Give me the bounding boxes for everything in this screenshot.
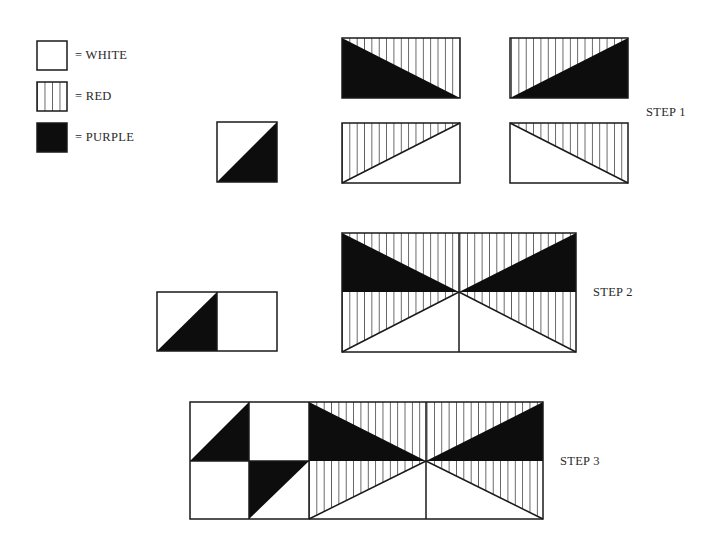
legend-label-white: = WHITE	[75, 48, 127, 63]
step1-rect-bottom-left	[342, 123, 460, 183]
legend-label-purple: = PURPLE	[75, 130, 134, 145]
step2-large-unit	[342, 233, 576, 352]
step3-label: STEP 3	[560, 454, 600, 469]
step2-small-unit	[157, 292, 277, 351]
legend-swatch-white	[37, 41, 67, 70]
step1-label: STEP 1	[646, 105, 686, 120]
legend	[37, 41, 67, 152]
legend-swatch-purple	[37, 123, 67, 152]
step1-rect-top-left	[342, 38, 460, 98]
step1-rect-bottom-right	[510, 123, 628, 183]
step1-hst-block	[217, 122, 277, 182]
quilt-diagram	[0, 0, 713, 544]
step2-label: STEP 2	[593, 285, 633, 300]
legend-label-red: = RED	[75, 89, 112, 104]
step1-rect-top-right	[510, 38, 628, 98]
step3-left-four-patch	[190, 402, 309, 519]
legend-swatch-red	[37, 82, 67, 111]
step3-right-unit	[309, 402, 543, 519]
